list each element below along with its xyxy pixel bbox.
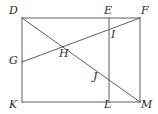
vertex-label-J: J	[93, 71, 97, 82]
vertex-label-M: M	[141, 99, 152, 110]
figure-canvas	[0, 0, 158, 114]
segment-diagonal-DM	[22, 18, 140, 102]
vertex-label-L: L	[104, 99, 111, 110]
vertex-label-D: D	[9, 5, 18, 16]
vertex-label-F: F	[141, 5, 149, 16]
vertex-label-K: K	[9, 99, 17, 110]
geometry-figure: D E F G H I J K L M	[0, 0, 158, 114]
vertex-label-I: I	[111, 29, 115, 40]
vertex-label-E: E	[104, 5, 112, 16]
interior-lines	[22, 18, 140, 102]
vertex-label-G: G	[9, 55, 18, 66]
vertex-label-H: H	[59, 48, 69, 59]
segment-diagonal-GF	[22, 18, 140, 62]
